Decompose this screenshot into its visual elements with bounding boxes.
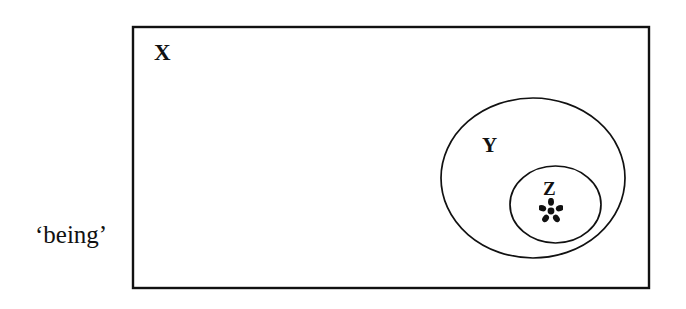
set-z-label: Z <box>543 179 556 198</box>
being-caption: ‘being’ <box>35 222 107 248</box>
set-x-rectangle <box>133 27 649 288</box>
set-y-ellipse <box>441 98 625 258</box>
venn-diagram-figure: X Y Z ‘being’ <box>0 0 686 309</box>
diagram-canvas <box>0 0 686 309</box>
set-y-label: Y <box>482 135 497 156</box>
asterisk-marker-icon <box>539 198 563 224</box>
set-x-label: X <box>154 41 171 64</box>
